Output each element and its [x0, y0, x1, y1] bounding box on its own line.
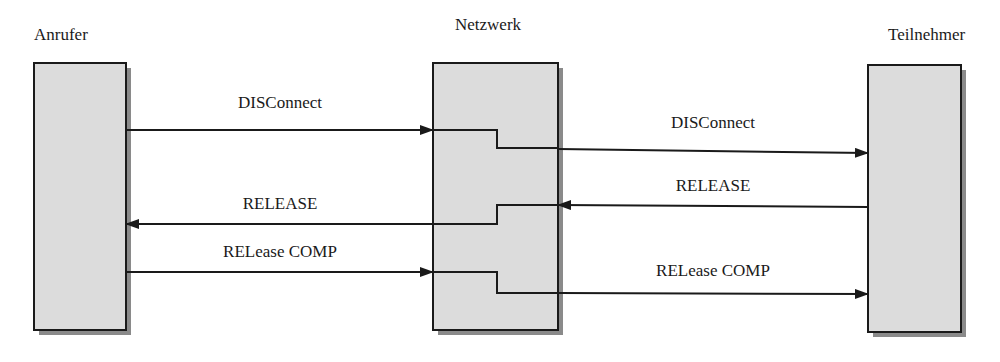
arrow-release-subscriber-network	[558, 205, 868, 207]
message-label-release-2: RELEASE	[243, 194, 318, 214]
participant-box-network	[433, 63, 563, 335]
sequence-diagram	[0, 0, 1000, 362]
message-label-release-1: RELEASE	[676, 176, 751, 196]
message-label-disconnect-2: DISConnect	[671, 113, 755, 133]
participant-box-caller	[34, 63, 131, 335]
message-label-release-comp-2: RELease COMP	[656, 261, 770, 281]
arrow-disconnect-network-subscriber	[558, 149, 868, 153]
message-label-release-comp-1: RELease COMP	[223, 242, 337, 262]
participant-label-subscriber: Teilnehmer	[888, 25, 965, 45]
participant-label-caller: Anrufer	[34, 25, 88, 45]
arrow-release-comp-network-subscriber	[558, 293, 868, 294]
participant-label-network: Netzwerk	[455, 15, 521, 35]
participant-box-subscriber	[868, 65, 966, 337]
message-label-disconnect-1: DISConnect	[238, 93, 322, 113]
